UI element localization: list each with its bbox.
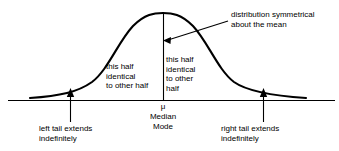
median-mode-label: Median Mode [150,112,176,131]
bell-curve-figure: distribution symmetrical about the mean … [0,0,339,151]
annotation-leader-line [168,21,228,40]
right-tail-caption: right tail extends indefinitely [221,124,279,143]
right-half-label: this half identical to other half [166,55,195,93]
left-half-label: this half identical to other half [106,62,148,91]
symmetry-annotation-label: distribution symmetrical about the mean [231,10,315,29]
mu-symbol-label: μ [161,103,166,111]
left-tail-caption: left tail extends indefinitely [39,124,92,143]
annotation-arrowhead-icon [163,37,171,44]
